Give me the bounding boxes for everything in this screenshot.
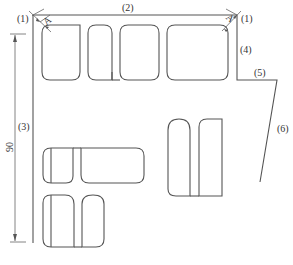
label-5: (5)	[254, 67, 266, 79]
top-shape-1	[42, 25, 80, 80]
label-1-right: (1)	[241, 13, 253, 25]
dimension-90: 90	[4, 34, 26, 242]
layout-diagram: A A (1) (2) (1) (4) (5) (6) (3) 90	[0, 0, 293, 265]
bottom-shape-1	[43, 148, 73, 183]
top-shape-2	[88, 25, 112, 80]
dimension-90-label: 90	[4, 142, 15, 152]
label-6: (6)	[277, 123, 289, 135]
right-pair-shapes	[168, 119, 222, 196]
corner-marker-right: A	[222, 9, 241, 32]
right-shape-2	[199, 119, 222, 196]
label-3: (3)	[18, 121, 30, 133]
label-2: (2)	[122, 2, 134, 14]
label-1-left: (1)	[17, 13, 29, 25]
bottom-shape-4	[82, 195, 104, 247]
bottom-row-2-shapes	[43, 195, 104, 247]
top-shape-3	[120, 25, 159, 80]
top-row-shapes	[42, 25, 228, 80]
label-4: (4)	[240, 44, 252, 56]
top-shape-4	[167, 25, 228, 80]
bottom-shape-3	[43, 195, 74, 247]
bottom-row-1-shapes	[43, 148, 144, 183]
bottom-shape-2	[81, 148, 144, 183]
right-shape-1	[168, 119, 190, 196]
